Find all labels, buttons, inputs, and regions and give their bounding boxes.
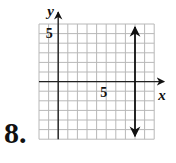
x-tick-label: 5 [100, 85, 107, 100]
x-axis-label: x [157, 87, 166, 103]
problem-number: 8. [4, 118, 27, 148]
y-axis-label: y [45, 3, 54, 19]
graph-figure: xy55 8. [0, 0, 176, 163]
y-tick-label: 5 [46, 26, 53, 41]
